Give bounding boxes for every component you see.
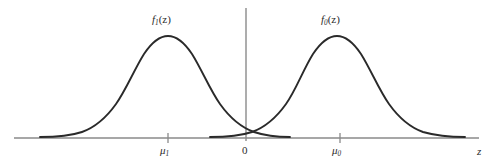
- curve-label-f0: f0(z): [321, 13, 340, 27]
- curve-f0: [210, 36, 465, 137]
- curve-label-f0-arg: (z): [328, 13, 340, 25]
- tick-label-mu1: μ1: [160, 144, 169, 158]
- tick-label-mu0: μ0: [332, 144, 341, 158]
- figure-container: f1(z) f0(z) μ1 0 μ0 z: [0, 0, 493, 166]
- curve-label-f1: f1(z): [152, 13, 171, 27]
- axis-label-z-base: z: [477, 145, 481, 157]
- tick-label-mu1-sub: 1: [166, 150, 170, 158]
- distribution-plot: [0, 0, 493, 166]
- tick-label-zero: 0: [242, 144, 248, 156]
- curve-f1: [40, 36, 290, 137]
- tick-label-mu0-sub: 0: [338, 150, 342, 158]
- axis-label-z: z: [477, 145, 481, 157]
- tick-label-zero-base: 0: [242, 144, 248, 156]
- curve-label-f1-arg: (z): [159, 13, 171, 25]
